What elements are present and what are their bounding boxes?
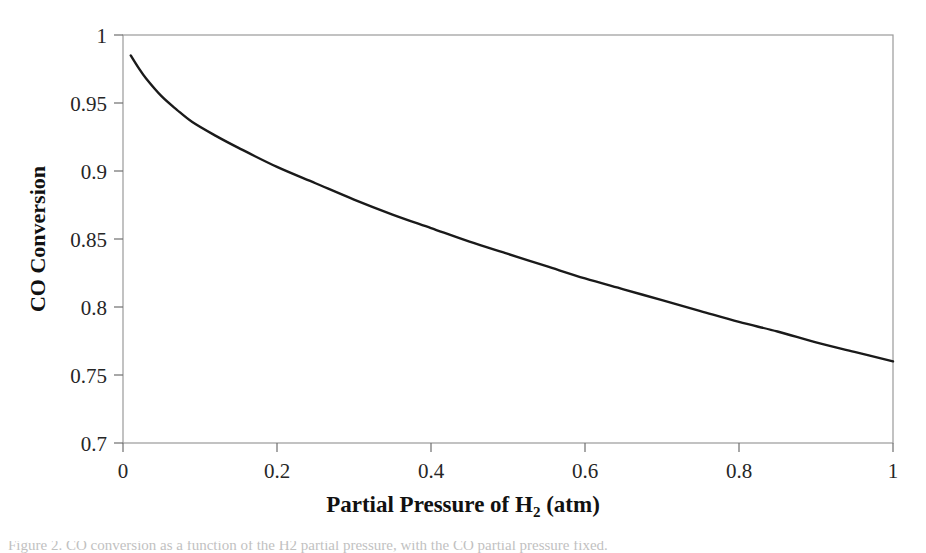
x-axis-title-tail: (atm) [540, 492, 599, 517]
y-axis-ticks [114, 35, 123, 443]
x-tick-label: 0 [118, 459, 129, 483]
x-tick-label: 0.6 [572, 459, 598, 483]
figure-caption: Figure 2. CO conversion as a function of… [8, 541, 918, 553]
y-tick-label: 1 [97, 24, 108, 48]
chart-area: 1 0.95 0.9 0.85 0.8 0.75 0.7 0 0.2 0.4 0… [0, 0, 926, 487]
x-axis-ticks [123, 443, 893, 452]
x-tick-label: 0.4 [418, 459, 445, 483]
y-tick-label: 0.95 [70, 92, 107, 116]
y-tick-label: 0.8 [81, 296, 107, 320]
x-axis-title-main: Partial Pressure of H [326, 492, 533, 517]
y-tick-label: 0.85 [70, 228, 107, 252]
x-tick-label: 0.8 [726, 459, 752, 483]
y-axis-title: CO Conversion [25, 166, 50, 312]
x-axis-title: Partial Pressure of H2 (atm) [0, 492, 926, 521]
y-tick-label: 0.75 [70, 364, 107, 388]
figure-container: 1 0.95 0.9 0.85 0.8 0.75 0.7 0 0.2 0.4 0… [0, 0, 926, 553]
x-tick-label: 1 [888, 459, 899, 483]
line-chart: 1 0.95 0.9 0.85 0.8 0.75 0.7 0 0.2 0.4 0… [0, 0, 926, 487]
plot-frame [123, 35, 893, 443]
x-tick-label: 0.2 [264, 459, 290, 483]
y-tick-label: 0.7 [81, 432, 107, 456]
figure-caption-row: Figure 2. CO conversion as a function of… [0, 541, 926, 553]
y-tick-label: 0.9 [81, 160, 107, 184]
